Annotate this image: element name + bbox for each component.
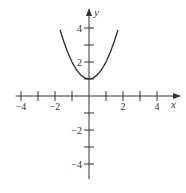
x-tick-label: 4 [155, 101, 160, 112]
x-tick-label: −4 [16, 101, 27, 112]
x-axis-label: x [170, 98, 176, 110]
axes [16, 8, 181, 179]
x-tick-label: 2 [121, 101, 126, 112]
y-tick-label: −4 [71, 159, 82, 170]
y-tick-label: −2 [71, 125, 82, 136]
y-axis-label: y [93, 6, 99, 18]
parabola-chart: xy−4−22442−2−4 [0, 0, 186, 193]
y-tick-label: 4 [77, 23, 82, 34]
x-tick-label: −2 [50, 101, 61, 112]
y-tick-label: 2 [77, 57, 82, 68]
tick-labels: xy−4−22442−2−4 [16, 6, 176, 170]
y-axis-arrow-icon [86, 8, 92, 16]
